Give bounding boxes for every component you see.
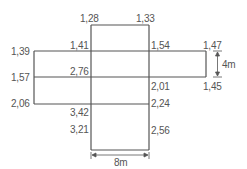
elevation-label: 2,56	[151, 126, 170, 136]
elevation-label: 1,28	[80, 14, 99, 24]
elevation-label: 2,76	[70, 67, 89, 77]
elevation-label: 2,01	[151, 82, 170, 92]
elevation-label: 1,33	[136, 14, 155, 24]
height-dimension-label: 4m	[222, 60, 236, 70]
elevation-label: 3,42	[70, 108, 89, 118]
elevation-label: 1,47	[203, 41, 222, 51]
elevation-label: 1,54	[151, 41, 170, 51]
elevation-label: 1,41	[70, 41, 89, 51]
elevation-label: 3,21	[70, 125, 89, 135]
elevation-label: 1,39	[11, 47, 30, 57]
width-dimension-label: 8m	[114, 158, 128, 168]
elevation-label: 2,24	[151, 99, 170, 109]
elevation-label: 1,45	[203, 82, 222, 92]
height-dimension	[213, 51, 222, 77]
elevation-label: 1,57	[11, 73, 30, 83]
elevation-label: 2,06	[11, 99, 30, 109]
